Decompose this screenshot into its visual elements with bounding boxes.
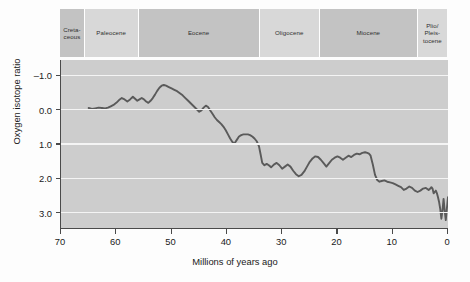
epoch-band-creta: Creta-ceous bbox=[60, 9, 85, 57]
x-axis-tick bbox=[447, 229, 448, 234]
x-axis-ticks bbox=[60, 229, 449, 235]
y-axis-tick-label: –1.0 bbox=[34, 70, 52, 81]
x-axis-tick-label: 70 bbox=[55, 236, 65, 247]
x-axis-title: Millions of years ago bbox=[0, 256, 470, 267]
isotope-curve-path bbox=[89, 85, 448, 220]
x-axis-tick bbox=[226, 229, 227, 234]
y-axis-tick-label: 2.0 bbox=[39, 173, 52, 184]
x-axis-tick bbox=[115, 229, 116, 234]
x-axis-tick bbox=[60, 229, 61, 234]
x-axis-tick-label: 10 bbox=[386, 236, 396, 247]
oxygen-isotope-figure: Creta-ceousPaleoceneEoceneOligoceneMioce… bbox=[0, 0, 470, 282]
epoch-band-paleocene: Paleocene bbox=[85, 9, 139, 57]
gridline bbox=[61, 212, 448, 213]
x-axis-tick bbox=[336, 229, 337, 234]
epoch-band-eocene: Eocene bbox=[139, 9, 260, 57]
x-axis-tick bbox=[281, 229, 282, 234]
epoch-band-strip: Creta-ceousPaleoceneEoceneOligoceneMioce… bbox=[60, 9, 447, 57]
gridline bbox=[61, 109, 448, 110]
x-axis-tick-label: 40 bbox=[221, 236, 231, 247]
epoch-label: Oligocene bbox=[274, 29, 304, 36]
y-axis-title: Oxygen isotope ratio bbox=[11, 22, 22, 182]
y-axis-tick-label: 3.0 bbox=[39, 207, 52, 218]
gridline bbox=[61, 75, 448, 76]
plot-area bbox=[60, 60, 448, 229]
epoch-label: Miocene bbox=[355, 29, 381, 36]
epoch-label: Eocene bbox=[187, 29, 210, 36]
x-axis-tick bbox=[171, 229, 172, 234]
x-axis-tick-label: 60 bbox=[110, 236, 120, 247]
x-axis-tick-label: 20 bbox=[331, 236, 341, 247]
x-axis-tick-label: 50 bbox=[165, 236, 175, 247]
y-axis-tick-label: 1.0 bbox=[39, 139, 52, 150]
x-axis-tick-label: 30 bbox=[276, 236, 286, 247]
epoch-band-plio: Plio/Pleis-tocene bbox=[418, 9, 447, 57]
epoch-label: Paleocene bbox=[95, 29, 127, 36]
y-axis-tick-label: 0.0 bbox=[39, 104, 52, 115]
epoch-label: Creta-ceous bbox=[62, 26, 82, 41]
epoch-band-miocene: Miocene bbox=[320, 9, 418, 57]
plot-inner bbox=[61, 60, 448, 228]
x-axis-tick bbox=[392, 229, 393, 234]
x-axis-tick-label: 0 bbox=[444, 236, 449, 247]
epoch-band-oligocene: Oligocene bbox=[260, 9, 320, 57]
epoch-label: Plio/Pleis-tocene bbox=[422, 22, 443, 44]
gridline bbox=[61, 178, 448, 179]
x-axis-tick-labels: 706050403020100 bbox=[0, 236, 470, 250]
gridline bbox=[61, 143, 448, 144]
y-axis-tick-labels: –1.00.01.02.03.0 bbox=[0, 60, 60, 235]
